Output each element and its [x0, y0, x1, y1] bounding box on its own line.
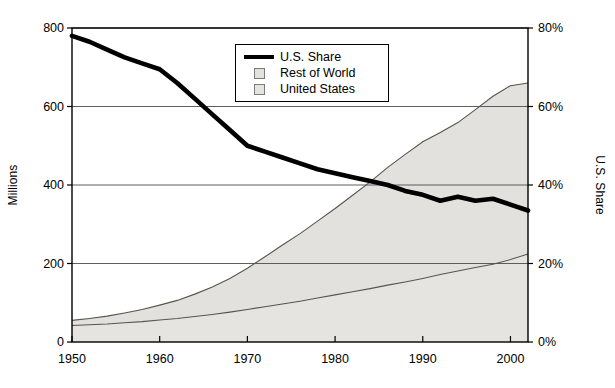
legend-item-1: Rest of World: [236, 65, 388, 81]
legend-item-2: United States: [236, 81, 388, 97]
chart-legend: U.S. Share Rest of World United States: [235, 44, 389, 102]
legend-line-marker-icon: [242, 55, 276, 60]
legend-label-1: Rest of World: [280, 66, 356, 80]
legend-label-0: U.S. Share: [280, 50, 341, 64]
legend-item-0: U.S. Share: [236, 49, 388, 65]
legend-swatch-icon-1: [242, 68, 276, 79]
legend-swatch-icon-2: [242, 84, 276, 95]
chart-container: Millions U.S. Share 02004006008000%20%40…: [0, 0, 615, 388]
legend-label-2: United States: [280, 82, 355, 96]
